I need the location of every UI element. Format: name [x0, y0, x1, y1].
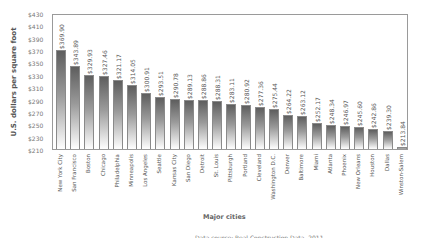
bar [312, 123, 322, 149]
x-tick-label: Chicago [100, 154, 106, 176]
bar [326, 125, 336, 149]
bar [198, 100, 208, 149]
bar [397, 147, 407, 149]
x-tick-label: Miami [313, 154, 319, 171]
bar-value-label: $289.13 [186, 74, 193, 99]
bar-value-label: $327.46 [101, 51, 108, 76]
x-tick-label: Atlanta [327, 154, 333, 174]
bar-value-label: $369.90 [58, 24, 65, 49]
bar-value-label: $283.11 [228, 78, 235, 103]
bar [127, 85, 137, 149]
y-tick-label: $290 [28, 97, 43, 104]
bar [70, 66, 80, 149]
bar-value-label: $290.78 [172, 73, 179, 98]
bar [212, 101, 222, 149]
bar-value-label: $246.97 [342, 100, 349, 125]
x-tick-label: Portland [242, 154, 248, 177]
source-note: Data source: Real Construction Data, 201… [195, 234, 331, 238]
y-tick-label: $370 [28, 48, 43, 55]
x-tick-label: Washington D.C. [270, 154, 276, 200]
bar [340, 126, 350, 149]
x-tick-label: St. Louis [213, 154, 219, 177]
x-axis-title: Major cities [203, 213, 246, 221]
bar-value-label: $239.30 [385, 105, 392, 130]
bar-value-label: $329.93 [86, 49, 93, 74]
bar [56, 50, 66, 149]
x-tick-label: Detroit [199, 154, 205, 173]
x-tick-label: Philadelphia [114, 154, 120, 188]
bar-value-label: $213.84 [399, 121, 406, 146]
bar [354, 127, 364, 149]
bar-value-label: $263.12 [299, 90, 306, 115]
x-tick-label: Kansas City [171, 154, 177, 186]
bar [184, 100, 194, 149]
bar-value-label: $343.89 [72, 40, 79, 65]
bar [283, 115, 293, 149]
bar-value-label: $288.31 [214, 75, 221, 100]
bar-value-label: $288.86 [200, 74, 207, 99]
y-tick-label: $210 [28, 147, 43, 154]
bar-value-label: $245.60 [356, 101, 363, 126]
y-tick-label: $410 [28, 23, 43, 30]
bar-value-label: $293.51 [157, 72, 164, 97]
x-tick-label: Cleveland [256, 154, 262, 181]
x-tick-label: New York City [57, 154, 63, 192]
y-tick-label: $330 [28, 72, 43, 79]
bar [269, 109, 279, 149]
bar [226, 104, 236, 149]
bar [170, 99, 180, 149]
bar [84, 75, 94, 149]
bar-value-label: $264.22 [285, 90, 292, 115]
bar-value-label: $314.05 [129, 59, 136, 84]
x-tick-label: San Francisco [71, 154, 77, 192]
x-tick-label: Winston-Salem [398, 154, 404, 195]
y-tick-label: $350 [28, 60, 43, 67]
plot-area: $369.90$343.89$329.93$327.46$321.17$314.… [52, 14, 408, 150]
bar [255, 107, 265, 149]
y-tick-label: $230 [28, 134, 43, 141]
bar [383, 131, 393, 149]
bar-value-label: $275.44 [271, 83, 278, 108]
bar [241, 105, 251, 149]
bar [368, 129, 378, 149]
bar-value-label: $321.17 [115, 54, 122, 79]
x-tick-label: Seattle [156, 154, 162, 173]
y-axis-label: U.S. dollars per square foot [10, 27, 18, 136]
x-tick-label: Baltimore [298, 154, 304, 181]
bar [155, 97, 165, 149]
bar-value-label: $242.86 [370, 103, 377, 128]
x-tick-label: Pittsburgh [227, 154, 233, 182]
x-tick-label: Los Angeles [142, 154, 148, 187]
bar-value-label: $277.36 [257, 82, 264, 107]
bar-value-label: $300.91 [143, 67, 150, 92]
y-tick-label: $250 [28, 122, 43, 129]
y-tick-label: $390 [28, 35, 43, 42]
y-tick-label: $270 [28, 109, 43, 116]
y-tick-label: $310 [28, 85, 43, 92]
bar [113, 80, 123, 149]
y-tick-label: $430 [28, 11, 43, 18]
bar [141, 93, 151, 149]
bar [99, 76, 109, 149]
bar-value-label: $248.34 [328, 99, 335, 124]
x-tick-label: Phoenix [341, 154, 347, 176]
x-tick-label: Dallas [384, 154, 390, 171]
bar-value-label: $280.92 [243, 79, 250, 104]
x-tick-label: New Orleans [355, 154, 361, 189]
x-tick-label: Boston [85, 154, 91, 173]
bar [297, 116, 307, 149]
x-tick-label: Houston [369, 154, 375, 177]
bar-value-label: $252.17 [314, 97, 321, 122]
x-tick-label: Minneapolis [128, 154, 134, 187]
x-tick-label: Denver [284, 154, 290, 174]
x-tick-label: San Diego [185, 154, 191, 182]
